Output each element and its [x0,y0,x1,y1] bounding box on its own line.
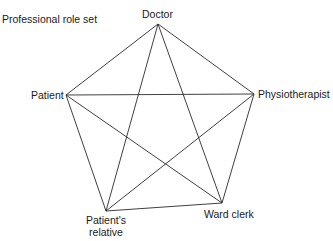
edge-physiotherapist-patients_relative [106,94,254,211]
diagram-title: Professional role set [2,13,97,25]
node-doctor-label: Doctor [142,8,173,20]
edge-doctor-patients_relative [106,24,158,211]
edge-patient-patients_relative [66,95,106,211]
edge-doctor-patient [66,24,158,95]
edge-patient-physiotherapist [66,94,254,95]
node-patient-label: Patient [31,89,64,101]
edge-doctor-ward_clerk [158,24,222,203]
node-ward-clerk-label: Ward clerk [204,208,254,220]
node-patients-relative-label: Patient's relative [80,214,132,238]
role-set-graph [0,0,333,241]
node-physiotherapist-label: Physiotherapist [258,88,330,100]
edge-physiotherapist-ward_clerk [222,94,254,203]
edge-doctor-physiotherapist [158,24,254,94]
edge-patient-ward_clerk [66,95,222,203]
